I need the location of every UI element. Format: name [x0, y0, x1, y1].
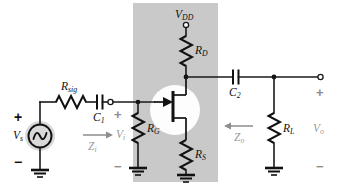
label-rsig: Rsig — [61, 81, 77, 94]
ground-symbol-source — [31, 170, 49, 177]
polarity-source-plus: + — [14, 110, 22, 124]
label-vs: Vs — [13, 130, 23, 143]
label-vi: Vi — [116, 129, 125, 142]
resistor-rl — [269, 113, 281, 143]
label-rg: RG — [147, 123, 160, 136]
polarity-input-plus: + — [114, 108, 122, 121]
polarity-output-plus: + — [316, 86, 324, 99]
polarity-output-minus: − — [316, 160, 324, 173]
label-zi: Zi — [88, 141, 97, 154]
zo-arrow-icon — [224, 123, 253, 130]
polarity-source-minus: − — [14, 155, 22, 169]
label-c2: C2 — [229, 87, 241, 100]
capacitor-c2 — [233, 70, 239, 85]
ground-symbol-rl — [265, 168, 283, 175]
label-vo: Vo — [313, 123, 324, 136]
label-c1: C1 — [93, 112, 105, 125]
circuit-diagram: VDD RD RS RG Rsig RL C1 C2 Vs Vi Vo Zi — [0, 0, 344, 194]
capacitor-c1 — [97, 95, 103, 110]
output-terminal-node — [318, 74, 323, 79]
zi-arrow-icon — [83, 132, 113, 139]
label-rs: RS — [195, 149, 206, 162]
label-rd: RD — [195, 45, 208, 58]
polarity-input-minus: − — [114, 160, 122, 173]
label-rl: RL — [283, 123, 294, 136]
resistor-rsig — [56, 96, 86, 108]
schematic-canvas — [0, 0, 344, 194]
label-zo: Zo — [234, 132, 244, 145]
label-vdd: VDD — [175, 9, 193, 22]
